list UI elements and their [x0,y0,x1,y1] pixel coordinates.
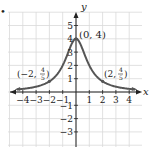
function-graph: −4−3−2−1123454321−1−2−3 y x (0, 4) (−2, … [0,0,149,147]
y-tick-label: 2 [67,61,73,71]
x-tick-label: −4 [16,95,30,105]
y-axis-label: y [80,1,87,12]
annotation-peak: (0, 4) [79,29,106,40]
y-tick-label: 3 [67,48,73,58]
annotation-left-den: 5 [41,74,45,81]
data-point [74,37,77,40]
y-tick-label: 5 [67,21,73,31]
annotation-right-num: 4 [119,66,123,73]
x-axis-label: x [143,86,149,97]
annotation-left-num: 4 [41,66,45,73]
x-tick-label: −3 [29,95,43,105]
x-tick-label: 3 [113,95,119,105]
x-tick-label: −2 [43,95,56,105]
annotation-right: (2, 4 5 ) [104,66,128,81]
y-tick-label: 4 [67,34,73,44]
annotation-left: (−2, 4 5 ) [17,66,50,81]
x-tick-label: 2 [100,95,106,105]
annotation-right-close: ) [124,69,128,79]
y-tick-label: 1 [67,74,73,84]
annotation-right-den: 5 [119,74,123,81]
y-tick-label: −1 [60,101,73,111]
data-point [101,80,104,83]
x-tick-label: 4 [126,95,132,105]
data-point [48,80,51,83]
y-tick-label: −3 [60,127,74,137]
annotation-left-prefix: (−2, [17,69,37,79]
annotation-left-close: ) [46,69,50,79]
annotation-right-prefix: (2, [104,69,116,79]
y-tick-label: −2 [60,114,73,124]
x-tick-label: 1 [86,95,92,105]
